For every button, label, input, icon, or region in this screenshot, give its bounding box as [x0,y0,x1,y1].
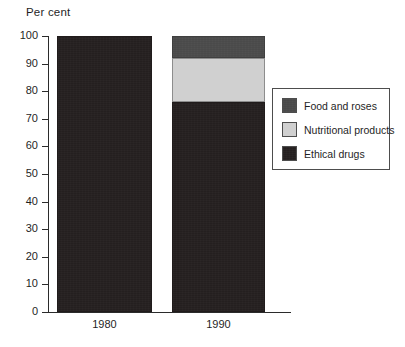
y-axis-tick-label: 40 [12,196,38,207]
y-axis-tick-label: 70 [12,113,38,124]
y-axis-tick-label: 20 [12,251,38,262]
bar-1990 [172,36,265,312]
legend-label: Nutritional products [304,124,394,136]
y-axis-tick-label: 80 [12,85,38,96]
y-axis-tick [42,91,48,92]
bar-segment-nutritional-products [172,58,265,102]
x-axis-label-1980: 1980 [57,318,152,330]
x-axis-label-1990: 1990 [172,318,265,330]
y-axis-tick [42,146,48,147]
y-axis-title: Per cent [26,6,70,18]
y-axis-tick-label: 30 [12,223,38,234]
y-axis-tick-label: 100 [12,30,38,41]
y-axis-tick-label: 90 [12,58,38,69]
y-axis-tick [42,36,48,37]
legend: Food and roses Nutritional products Ethi… [272,88,390,170]
y-axis-tick-label: 50 [12,168,38,179]
y-axis-tick [42,64,48,65]
legend-swatch-food-and-roses [282,98,297,113]
y-axis-tick-label: 0 [12,306,38,317]
legend-label: Food and roses [304,100,377,112]
stacked-bar-chart: Per cent 0102030405060708090100 19801990… [0,0,405,347]
y-axis-tick [42,312,48,313]
y-axis-line [48,36,49,313]
legend-item: Ethical drugs [282,146,365,161]
y-axis-tick [42,284,48,285]
legend-swatch-ethical-drugs [282,146,297,161]
y-axis-tick-label: 10 [12,278,38,289]
legend-item: Food and roses [282,98,377,113]
legend-label: Ethical drugs [304,148,365,160]
bar-segment-food-and-roses [172,36,265,58]
y-axis-tick [42,202,48,203]
y-axis-tick [42,257,48,258]
y-axis-tick [42,229,48,230]
y-axis-tick-label: 60 [12,140,38,151]
legend-swatch-nutritional-products [282,122,297,137]
legend-item: Nutritional products [282,122,394,137]
y-axis-tick [42,174,48,175]
x-axis-line [48,312,291,313]
bar-segment-ethical-drugs [57,36,152,312]
bar-1980 [57,36,152,312]
bar-segment-ethical-drugs [172,102,265,312]
y-axis-tick [42,119,48,120]
